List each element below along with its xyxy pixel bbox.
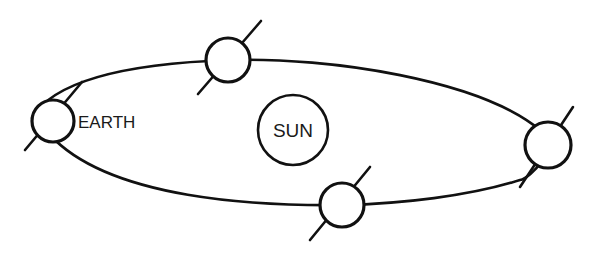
earth-bottom bbox=[310, 167, 370, 240]
earth-right bbox=[520, 107, 573, 187]
earth-left: EARTH bbox=[25, 82, 135, 150]
earth-circle bbox=[320, 183, 364, 227]
sun: SUN bbox=[258, 95, 328, 165]
earth-label: EARTH bbox=[78, 113, 135, 132]
orbit-diagram: SUN EARTH bbox=[0, 0, 604, 253]
earth-circle bbox=[525, 122, 571, 168]
sun-label: SUN bbox=[273, 120, 313, 141]
earth-circle bbox=[206, 38, 250, 82]
earth-top bbox=[198, 21, 261, 94]
earth-circle bbox=[32, 100, 74, 142]
